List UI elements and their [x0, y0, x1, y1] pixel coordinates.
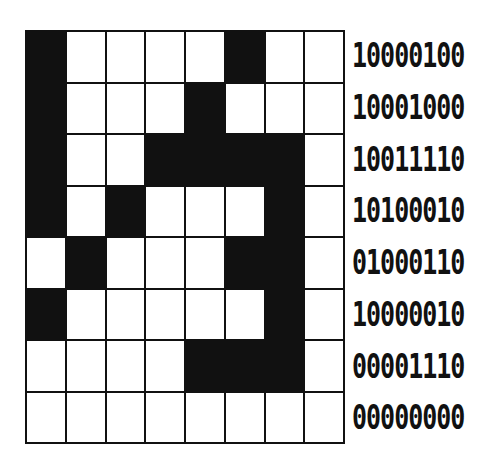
grid-cell-r0c4: [186, 32, 224, 82]
row-binary-label: 00000000: [352, 383, 492, 453]
grid-cell-r3c6: [265, 186, 305, 238]
grid-cell-r1c7: [305, 84, 343, 134]
grid-cell-r2c5: [225, 134, 265, 186]
grid-cell-r1c0: [26, 83, 66, 135]
grid-cell-r1c1: [67, 84, 105, 134]
grid-cell-r6c4: [185, 340, 225, 392]
grid-cell-r0c1: [67, 32, 105, 82]
grid-cell-r5c3: [146, 290, 184, 340]
grid-cell-r6c5: [225, 340, 265, 392]
grid-cell-r6c2: [107, 341, 145, 391]
grid-cell-r3c0: [26, 186, 66, 238]
grid-cell-r4c3: [146, 238, 184, 288]
grid-cell-r2c4: [185, 134, 225, 186]
grid-cell-r4c2: [107, 238, 145, 288]
grid-cell-r5c0: [26, 289, 66, 341]
grid-cell-r5c5: [226, 290, 264, 340]
grid-cell-r1c6: [266, 84, 304, 134]
grid-cell-r0c6: [266, 32, 304, 82]
grid-cell-r6c0: [27, 341, 65, 391]
grid-cell-r2c3: [145, 134, 185, 186]
grid-cell-r5c1: [67, 290, 105, 340]
grid-cell-r1c2: [107, 84, 145, 134]
grid-cell-r2c0: [26, 134, 66, 186]
grid-cell-r3c3: [146, 187, 184, 237]
grid-cell-r3c4: [186, 187, 224, 237]
grid-cell-r7c5: [226, 393, 264, 443]
grid-cell-r6c3: [146, 341, 184, 391]
grid-cell-r7c7: [305, 393, 343, 443]
grid-cell-r7c4: [186, 393, 224, 443]
grid-cell-r0c0: [26, 31, 66, 83]
grid-cell-r3c7: [305, 187, 343, 237]
grid-cell-r6c1: [67, 341, 105, 391]
grid-cell-r5c4: [186, 290, 224, 340]
grid-cell-r0c3: [146, 32, 184, 82]
grid-cell-r7c1: [67, 393, 105, 443]
grid-cell-r5c2: [107, 290, 145, 340]
grid-cell-r3c5: [226, 187, 264, 237]
grid-cell-r4c6: [265, 237, 305, 289]
grid-cell-r2c6: [265, 134, 305, 186]
grid-cell-r7c6: [266, 393, 304, 443]
grid-cell-r4c4: [186, 238, 224, 288]
grid-cell-r1c5: [226, 84, 264, 134]
grid-cell-r4c7: [305, 238, 343, 288]
grid-cell-r4c0: [27, 238, 65, 288]
grid-cell-r2c2: [107, 135, 145, 185]
grid-cell-r2c7: [305, 135, 343, 185]
grid-cell-r4c1: [66, 237, 106, 289]
grid-cell-r6c6: [265, 340, 305, 392]
grid-cell-r4c5: [225, 237, 265, 289]
grid-cell-r0c7: [305, 32, 343, 82]
grid-cell-r1c3: [146, 84, 184, 134]
grid-cell-r6c7: [305, 341, 343, 391]
grid-cell-r3c2: [106, 186, 146, 238]
grid-cell-r3c1: [67, 187, 105, 237]
grid-cell-r2c1: [67, 135, 105, 185]
binary-labels: 1000010010001000100111101010001001000110…: [352, 30, 492, 444]
grid-cell-r7c0: [27, 393, 65, 443]
grid-cell-r0c2: [107, 32, 145, 82]
bitmap-grid: [25, 30, 345, 444]
grid-cell-r7c2: [107, 393, 145, 443]
grid-cell-r5c7: [305, 290, 343, 340]
grid-cell-r1c4: [185, 83, 225, 135]
grid-cell-r7c3: [146, 393, 184, 443]
grid-cell-r5c6: [265, 289, 305, 341]
grid-cell-r0c5: [225, 31, 265, 83]
